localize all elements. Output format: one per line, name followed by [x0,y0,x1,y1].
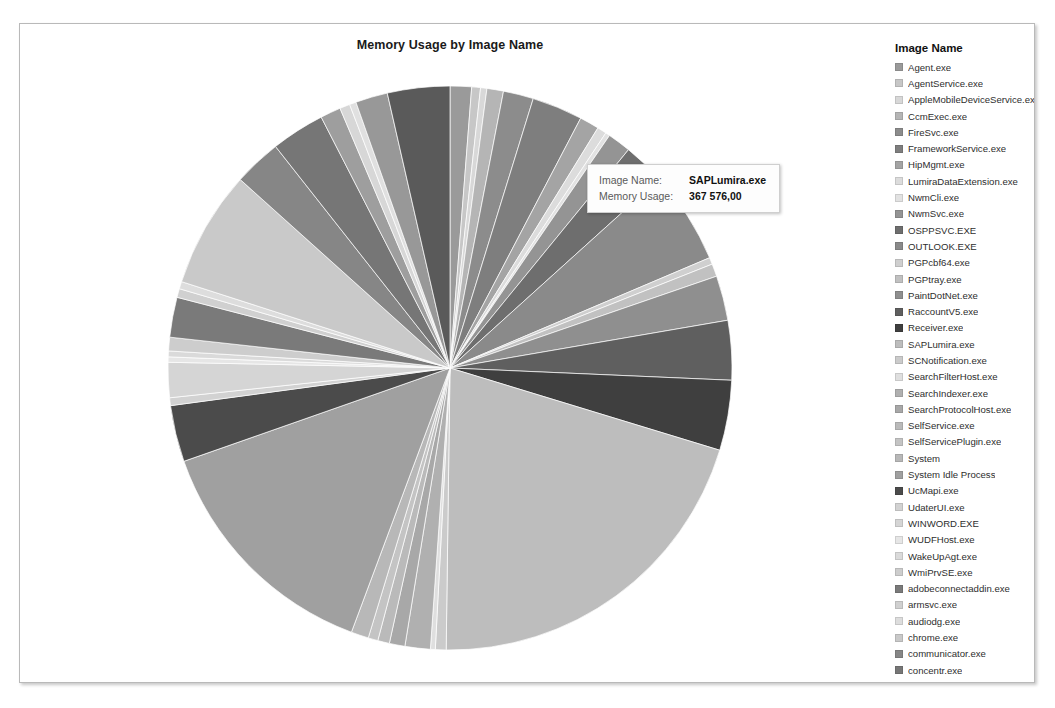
legend-item-label: SearchIndexer.exe [908,388,988,399]
legend-swatch-icon [895,666,903,674]
legend-item[interactable]: SelfService.exe [892,418,1034,434]
tooltip-label-image-name: Image Name: [599,172,689,188]
legend-item[interactable]: SAPLumira.exe [892,336,1034,352]
legend-item[interactable]: CcmExec.exe [892,108,1034,124]
legend-item[interactable]: Receiver.exe [892,320,1034,336]
legend-swatch-icon [895,79,903,87]
legend-swatch-icon [895,552,903,560]
legend-item-label: SelfService.exe [908,420,975,431]
legend-item[interactable]: SelfServicePlugin.exe [892,434,1034,450]
legend-item-label: UdaterUI.exe [908,502,965,513]
legend-item[interactable]: LumiraDataExtension.exe [892,173,1034,189]
legend-item[interactable]: WakeUpAgt.exe [892,548,1034,564]
legend-item-label: NwmCli.exe [908,192,959,203]
legend-item[interactable]: NwmCli.exe [892,189,1034,205]
tooltip-row-memory-usage: Memory Usage: 367 576,00 [599,188,766,204]
legend-swatch-icon [895,373,903,381]
legend-item-label: PGPtray.exe [908,274,962,285]
legend-item[interactable]: adobeconnectaddin.exe [892,581,1034,597]
legend-item[interactable]: UcMapi.exe [892,483,1034,499]
tooltip-value-image-name: SAPLumira.exe [689,172,766,188]
legend-swatch-icon [895,128,903,136]
legend-item[interactable]: FrameworkService.exe [892,140,1034,156]
legend-item[interactable]: AgentService.exe [892,75,1034,91]
legend-item[interactable]: WINWORD.EXE [892,515,1034,531]
legend-list[interactable]: Agent.exeAgentService.exeAppleMobileDevi… [892,59,1034,682]
legend-swatch-icon [895,568,903,576]
legend-item[interactable]: chrome.exe [892,629,1034,645]
legend-item-label: SearchFilterHost.exe [908,371,998,382]
legend-panel[interactable]: Image Name Agent.exeAgentService.exeAppl… [892,42,1034,682]
legend-item[interactable]: PGPcbf64.exe [892,255,1034,271]
legend-item[interactable]: WUDFHost.exe [892,532,1034,548]
legend-item[interactable]: SearchFilterHost.exe [892,369,1034,385]
legend-swatch-icon [895,585,903,593]
legend-item-label: AppleMobileDeviceService.exe [908,94,1034,105]
legend-item[interactable]: SearchIndexer.exe [892,385,1034,401]
legend-title: Image Name [895,42,1034,54]
pie-chart-area[interactable] [20,24,880,682]
legend-item[interactable]: FireSvc.exe [892,124,1034,140]
legend-item-label: PGPcbf64.exe [908,257,970,268]
legend-swatch-icon [895,275,903,283]
legend-item-label: RaccountV5.exe [908,306,978,317]
legend-item-label: communicator.exe [908,648,986,659]
legend-swatch-icon [895,471,903,479]
legend-item[interactable]: System [892,450,1034,466]
legend-swatch-icon [895,308,903,316]
legend-item-label: NwmSvc.exe [908,208,964,219]
chart-window: Memory Usage by Image Name Image Name: S… [19,23,1035,683]
legend-swatch-icon [895,177,903,185]
legend-item[interactable]: AppleMobileDeviceService.exe [892,92,1034,108]
tooltip-value-memory-usage: 367 576,00 [689,188,766,204]
legend-swatch-icon [895,356,903,364]
legend-item-label: System Idle Process [908,469,995,480]
legend-item[interactable]: Agent.exe [892,59,1034,75]
legend-swatch-icon [895,210,903,218]
legend-item[interactable]: NwmSvc.exe [892,206,1034,222]
legend-item[interactable]: WmiPrvSE.exe [892,564,1034,580]
legend-swatch-icon [895,650,903,658]
legend-item[interactable]: audiodg.exe [892,613,1034,629]
legend-swatch-icon [895,112,903,120]
legend-swatch-icon [895,503,903,511]
legend-scrollbar[interactable] [1028,42,1033,682]
legend-swatch-icon [895,259,903,267]
legend-swatch-icon [895,96,903,104]
legend-item[interactable]: PGPtray.exe [892,271,1034,287]
legend-item-label: armsvc.exe [908,599,957,610]
legend-item[interactable]: UdaterUI.exe [892,499,1034,515]
legend-swatch-icon [895,536,903,544]
legend-item-label: OUTLOOK.EXE [908,241,977,252]
legend-item-label: adobeconnectaddin.exe [908,583,1010,594]
legend-item[interactable]: System Idle Process [892,466,1034,482]
legend-item-label: WakeUpAgt.exe [908,551,977,562]
legend-swatch-icon [895,63,903,71]
legend-swatch-icon [895,242,903,250]
legend-swatch-icon [895,422,903,430]
legend-item[interactable]: communicator.exe [892,646,1034,662]
legend-swatch-icon [895,226,903,234]
legend-item[interactable]: armsvc.exe [892,597,1034,613]
legend-item-label: SCNotification.exe [908,355,987,366]
legend-swatch-icon [895,291,903,299]
legend-item-label: audiodg.exe [908,616,960,627]
legend-item[interactable]: HipMgmt.exe [892,157,1034,173]
legend-item[interactable]: SCNotification.exe [892,352,1034,368]
legend-item[interactable]: concentr.exe [892,662,1034,678]
legend-swatch-icon [895,601,903,609]
legend-item[interactable]: SearchProtocolHost.exe [892,401,1034,417]
legend-item[interactable]: RaccountV5.exe [892,303,1034,319]
legend-item-label: chrome.exe [908,632,958,643]
legend-item[interactable]: OSPPSVC.EXE [892,222,1034,238]
tooltip-label-memory-usage: Memory Usage: [599,188,689,204]
legend-item-label: concentr.exe [908,665,962,676]
legend-item-label: PaintDotNet.exe [908,290,978,301]
legend-item[interactable]: conhost.exe [892,678,1034,682]
legend-swatch-icon [895,438,903,446]
legend-swatch-icon [895,519,903,527]
legend-item-label: WUDFHost.exe [908,534,975,545]
legend-item-label: WINWORD.EXE [908,518,979,529]
legend-item[interactable]: PaintDotNet.exe [892,287,1034,303]
legend-item[interactable]: OUTLOOK.EXE [892,238,1034,254]
